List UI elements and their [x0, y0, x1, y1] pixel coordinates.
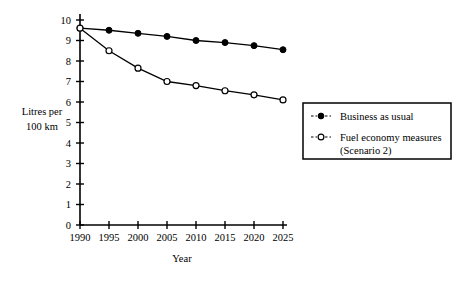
x-tick-label: 1995: [99, 232, 120, 243]
data-point: [280, 97, 286, 103]
y-tick-label: 8: [66, 56, 71, 67]
y-tick-label: 5: [66, 117, 71, 128]
data-point: [222, 88, 228, 94]
data-point: [164, 79, 170, 85]
data-point: [164, 33, 170, 39]
y-tick-label: 6: [66, 97, 71, 108]
data-point: [280, 47, 286, 53]
y-axis-title-line2: 100 km: [26, 121, 58, 132]
data-point: [135, 65, 141, 71]
y-tick-label: 1: [66, 199, 71, 210]
data-point: [106, 27, 112, 33]
x-tick-label: 2020: [244, 232, 265, 243]
y-tick-label: 4: [66, 138, 72, 149]
x-axis-title: Year: [172, 253, 192, 264]
data-point: [251, 43, 257, 49]
y-tick-label: 10: [61, 15, 72, 26]
legend-label-fuel-economy-scenario: (Scenario 2): [340, 145, 392, 157]
legend-open-circle-icon: [318, 134, 324, 140]
legend-label-fuel-economy-measures: Fuel economy measures: [340, 132, 441, 143]
chart-container: 012345678910 199019952000200520102015202…: [0, 0, 460, 282]
y-tick-label: 7: [66, 76, 71, 87]
y-tick-label: 3: [66, 158, 71, 169]
data-point: [193, 38, 199, 44]
data-point: [251, 92, 257, 98]
x-tick-label: 2005: [157, 232, 178, 243]
chart-legend: Business as usual Fuel economy measures …: [303, 103, 451, 159]
y-axis-title-line1: Litres per: [22, 106, 63, 117]
y-tick-label: 2: [66, 179, 71, 190]
x-tick-label: 2000: [128, 232, 149, 243]
legend-label-business-as-usual: Business as usual: [340, 111, 414, 122]
line-chart: 012345678910 199019952000200520102015202…: [0, 0, 460, 282]
y-tick-label: 9: [66, 35, 71, 46]
data-point: [77, 25, 83, 31]
data-point: [193, 83, 199, 89]
legend-filled-circle-icon: [318, 113, 324, 119]
data-point: [222, 40, 228, 46]
x-tick-label: 2025: [273, 232, 294, 243]
x-tick-label: 1990: [70, 232, 91, 243]
y-tick-label: 0: [66, 220, 71, 231]
x-tick-label: 2010: [186, 232, 207, 243]
x-tick-label: 2015: [215, 232, 236, 243]
data-point: [106, 48, 112, 54]
data-point: [135, 30, 141, 36]
